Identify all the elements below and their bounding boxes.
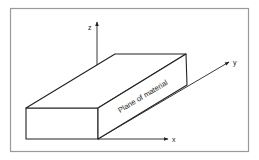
- material-block: [26, 54, 187, 139]
- front-face: [26, 108, 98, 139]
- x-axis-label: x: [172, 136, 176, 143]
- diagram-canvas: z y x Plane of material: [0, 0, 259, 160]
- y-axis-label: y: [233, 59, 237, 67]
- z-axis-label: z: [88, 24, 92, 31]
